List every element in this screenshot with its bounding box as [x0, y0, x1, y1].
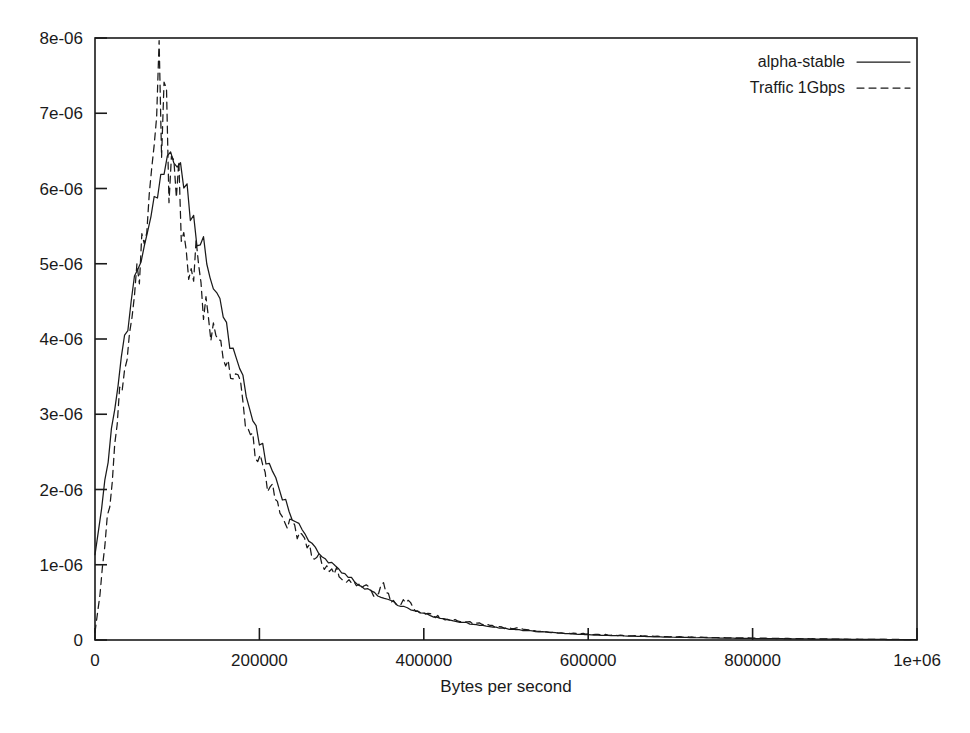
y-tick-label: 7e-06: [40, 104, 83, 123]
legend-label-alpha-stable: alpha-stable: [758, 53, 845, 70]
legend-label-traffic-1gbps: Traffic 1Gbps: [750, 79, 845, 96]
y-tick-label: 5e-06: [40, 255, 83, 274]
y-tick-label: 8e-06: [40, 29, 83, 48]
x-tick-label: 200000: [231, 651, 288, 670]
x-tick-label: 0: [90, 651, 99, 670]
y-tick-label: 2e-06: [40, 481, 83, 500]
chart-canvas: 01e-062e-063e-064e-065e-066e-067e-068e-0…: [0, 0, 970, 733]
y-tick-label: 0: [74, 631, 83, 650]
y-tick-label: 4e-06: [40, 330, 83, 349]
x-axis-title: Bytes per second: [440, 677, 571, 696]
x-tick-label: 1e+06: [893, 651, 941, 670]
y-tick-label: 6e-06: [40, 180, 83, 199]
x-tick-label: 400000: [395, 651, 452, 670]
chart-background: [0, 0, 970, 733]
x-tick-label: 800000: [724, 651, 781, 670]
y-tick-label: 3e-06: [40, 405, 83, 424]
x-tick-label: 600000: [560, 651, 617, 670]
probability-density-chart: 01e-062e-063e-064e-065e-066e-067e-068e-0…: [0, 0, 970, 733]
y-tick-label: 1e-06: [40, 556, 83, 575]
